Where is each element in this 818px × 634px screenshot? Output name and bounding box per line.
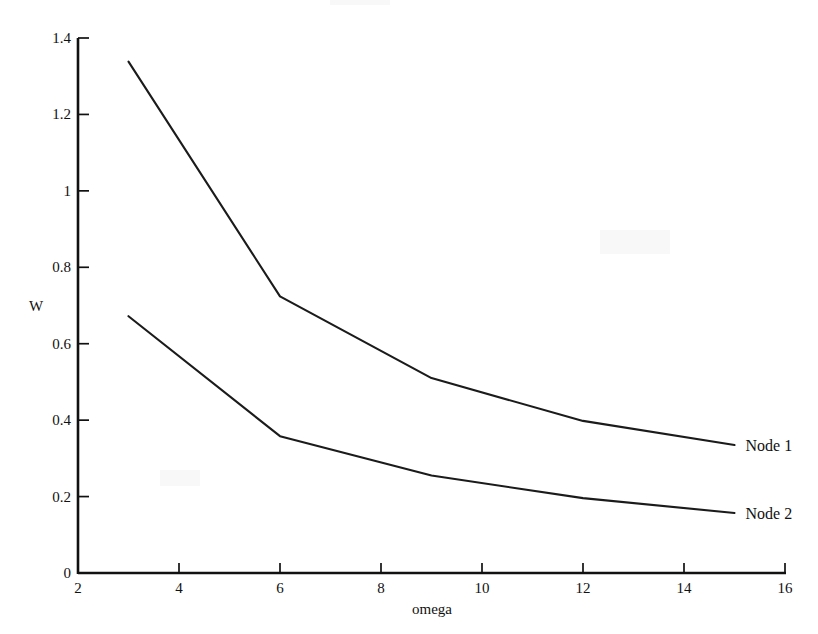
- x-tick-label: 16: [778, 580, 794, 596]
- data-series-group: [129, 62, 735, 513]
- y-tick-label: 0.8: [52, 259, 71, 275]
- x-axis: 246810121416: [74, 563, 793, 596]
- x-tick-label: 10: [475, 580, 490, 596]
- y-tick-label: 0.6: [52, 336, 71, 352]
- plot-area: 00.20.40.60.811.21.4 246810121416 W omeg…: [0, 0, 818, 634]
- y-tick-label: 1.2: [52, 106, 71, 122]
- x-tick-labels: 246810121416: [74, 580, 793, 596]
- data-series-line-2: [129, 316, 735, 513]
- y-tick-label: 0.2: [52, 489, 71, 505]
- x-tick-label: 4: [175, 580, 183, 596]
- x-tick-label: 12: [576, 580, 591, 596]
- y-tick-label: 0: [64, 565, 72, 581]
- y-axis: 00.20.40.60.811.21.4: [52, 30, 89, 581]
- series-label-1: Node 1: [746, 437, 793, 454]
- x-axis-title: omega: [412, 601, 452, 617]
- series-label-group: Node 1Node 2: [746, 437, 793, 522]
- y-axis-title: W: [29, 298, 44, 314]
- x-tick-label: 2: [74, 580, 82, 596]
- x-tick-marks: [78, 563, 785, 573]
- y-tick-labels: 00.20.40.60.811.21.4: [52, 30, 71, 581]
- series-label-2: Node 2: [746, 505, 793, 522]
- y-tick-label: 1.4: [52, 30, 71, 46]
- x-tick-label: 8: [377, 580, 385, 596]
- y-tick-label: 0.4: [52, 412, 71, 428]
- chart-figure: 00.20.40.60.811.21.4 246810121416 W omeg…: [0, 0, 818, 634]
- y-tick-marks: [78, 38, 89, 573]
- x-tick-label: 6: [276, 580, 284, 596]
- x-tick-label: 14: [677, 580, 693, 596]
- y-tick-label: 1: [64, 183, 72, 199]
